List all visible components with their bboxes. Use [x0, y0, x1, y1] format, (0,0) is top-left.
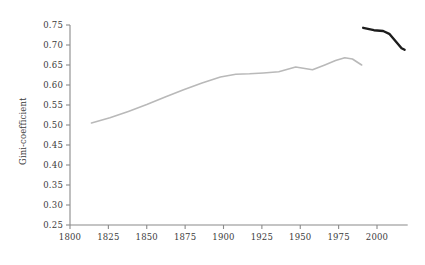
x-tick-label: 1975: [327, 232, 349, 242]
series-line-recent-series: [363, 28, 404, 50]
y-tick-label: 0.30: [0, 200, 63, 210]
y-tick-label: 0.60: [0, 80, 63, 90]
series-line-historical-estimate: [91, 58, 361, 123]
x-tick-label: 1825: [97, 232, 119, 242]
y-axis-title: Gini-coefficient: [18, 98, 28, 166]
y-tick-label: 0.25: [0, 220, 63, 230]
y-tick-label: 0.40: [0, 160, 63, 170]
x-tick-label: 1800: [59, 232, 81, 242]
y-tick-label: 0.35: [0, 180, 63, 190]
chart-plot-area: [0, 0, 425, 265]
chart-series-group: [91, 28, 404, 123]
x-tick-label: 1875: [174, 232, 196, 242]
y-tick-label: 0.50: [0, 120, 63, 130]
y-tick-label: 0.55: [0, 100, 63, 110]
chart-axes: [66, 25, 408, 229]
chart-container: 0.250.300.350.400.450.500.550.600.650.70…: [0, 0, 425, 265]
x-tick-label: 2000: [366, 232, 388, 242]
y-tick-label: 0.65: [0, 60, 63, 70]
x-tick-label: 1925: [251, 232, 273, 242]
y-tick-label: 0.75: [0, 20, 63, 30]
x-tick-label: 1900: [212, 232, 234, 242]
y-tick-label: 0.45: [0, 140, 63, 150]
y-tick-label: 0.70: [0, 40, 63, 50]
x-tick-label: 1850: [136, 232, 158, 242]
x-tick-label: 1950: [289, 232, 311, 242]
